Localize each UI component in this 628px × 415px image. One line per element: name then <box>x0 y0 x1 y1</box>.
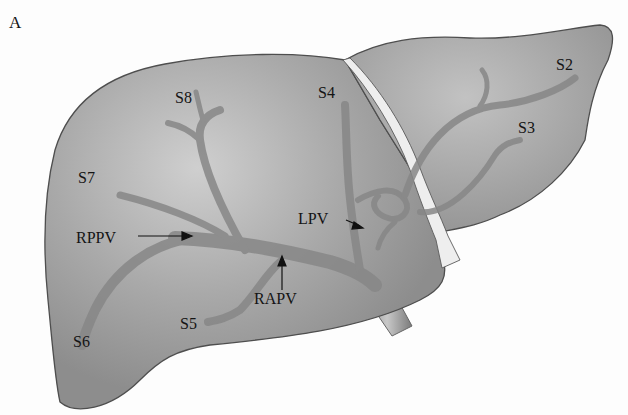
segment-label-s6: S6 <box>73 334 90 350</box>
liver-diagram: A S2 S3 S4 S5 S6 S7 S8 RPPV RAPV LPV <box>0 0 628 415</box>
segment-label-s5: S5 <box>180 316 197 332</box>
segment-label-s8: S8 <box>175 90 192 106</box>
segment-label-s3: S3 <box>518 120 535 136</box>
vessel-label-rapv: RAPV <box>254 291 297 307</box>
panel-label: A <box>9 14 21 31</box>
segment-label-s2: S2 <box>556 57 573 73</box>
segment-label-s7: S7 <box>78 170 95 186</box>
segment-label-s4: S4 <box>318 85 335 101</box>
vessel-label-rppv: RPPV <box>76 230 116 246</box>
liver-illustration <box>0 0 628 415</box>
vessel-label-lpv: LPV <box>298 211 328 227</box>
